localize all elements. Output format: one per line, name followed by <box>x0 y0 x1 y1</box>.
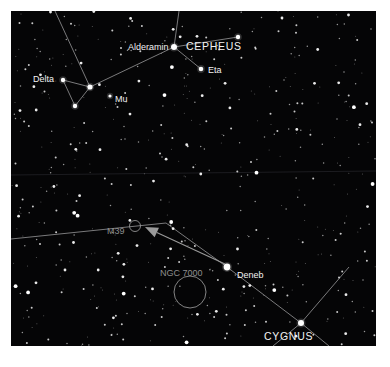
background-star <box>265 285 267 287</box>
arrow-head <box>145 227 159 237</box>
background-star <box>236 171 238 173</box>
background-star <box>20 118 21 119</box>
background-star <box>356 189 357 190</box>
background-star <box>290 86 291 87</box>
background-star <box>192 59 193 60</box>
background-star <box>240 11 242 13</box>
background-star <box>28 125 30 127</box>
background-star <box>269 86 270 87</box>
background-star <box>92 131 94 133</box>
background-star <box>152 130 154 132</box>
background-star <box>184 175 185 176</box>
background-star <box>272 288 276 292</box>
background-star <box>204 148 206 150</box>
background-star <box>36 239 38 241</box>
background-star <box>336 118 338 120</box>
background-star <box>99 148 102 151</box>
background-star <box>92 11 95 13</box>
background-star <box>366 260 368 262</box>
background-star <box>216 45 218 47</box>
background-star <box>173 305 174 306</box>
background-star <box>270 261 271 262</box>
background-star <box>54 193 55 194</box>
background-star <box>111 30 113 32</box>
background-star <box>243 293 245 295</box>
background-star <box>179 286 181 288</box>
background-star <box>138 141 140 143</box>
background-star <box>122 339 124 341</box>
background-star <box>296 133 297 134</box>
background-star <box>17 215 20 218</box>
background-star <box>144 313 146 315</box>
background-star <box>130 208 132 210</box>
background-star <box>347 120 348 121</box>
background-star <box>334 184 335 185</box>
background-star <box>19 109 22 112</box>
background-star <box>240 210 242 212</box>
background-star <box>24 245 26 247</box>
background-star <box>317 16 319 18</box>
background-star <box>98 83 101 86</box>
background-star <box>77 36 78 37</box>
background-star <box>238 99 240 101</box>
background-star <box>337 163 338 164</box>
background-star <box>41 187 42 188</box>
background-star <box>75 167 76 168</box>
background-star <box>124 138 126 140</box>
background-star <box>295 24 297 26</box>
background-star <box>33 85 36 88</box>
background-star <box>196 313 199 316</box>
background-star <box>265 321 267 323</box>
background-star <box>253 297 254 298</box>
constellation-line <box>90 47 174 87</box>
background-star <box>269 253 270 254</box>
background-star <box>81 345 82 346</box>
background-star <box>373 334 375 336</box>
background-star <box>91 253 92 254</box>
background-star <box>162 308 164 310</box>
background-star <box>185 340 189 344</box>
background-star <box>357 232 358 233</box>
background-star <box>169 201 170 202</box>
background-star <box>200 124 201 125</box>
background-star <box>229 28 231 30</box>
background-star <box>181 241 183 243</box>
background-star <box>122 292 126 296</box>
background-star <box>229 324 231 326</box>
background-star <box>336 311 338 313</box>
background-star <box>346 216 347 217</box>
background-star <box>359 123 362 126</box>
background-star <box>368 224 370 226</box>
background-star <box>194 102 196 104</box>
background-star <box>145 286 147 288</box>
grid-layer <box>11 171 376 175</box>
background-star <box>285 77 286 78</box>
background-star <box>178 261 180 263</box>
background-star <box>264 136 266 138</box>
background-star <box>125 281 126 282</box>
background-star <box>356 39 358 41</box>
background-star <box>152 180 155 183</box>
background-star <box>368 142 369 143</box>
background-star <box>255 321 257 323</box>
background-star <box>19 22 21 24</box>
background-star <box>104 178 106 180</box>
background-star <box>297 276 299 278</box>
background-star <box>218 232 219 233</box>
background-star <box>146 33 147 34</box>
background-star <box>49 98 50 99</box>
background-star <box>170 224 172 226</box>
background-star <box>371 122 373 124</box>
background-star <box>76 214 80 218</box>
background-star <box>98 39 99 40</box>
background-star <box>148 262 149 263</box>
background-star <box>75 159 76 160</box>
background-star <box>185 58 187 60</box>
background-star <box>370 28 372 30</box>
background-star <box>82 344 84 346</box>
background-star <box>309 134 311 136</box>
background-star <box>302 89 303 90</box>
background-star <box>60 276 61 277</box>
background-star <box>192 239 193 240</box>
background-star <box>212 270 214 272</box>
